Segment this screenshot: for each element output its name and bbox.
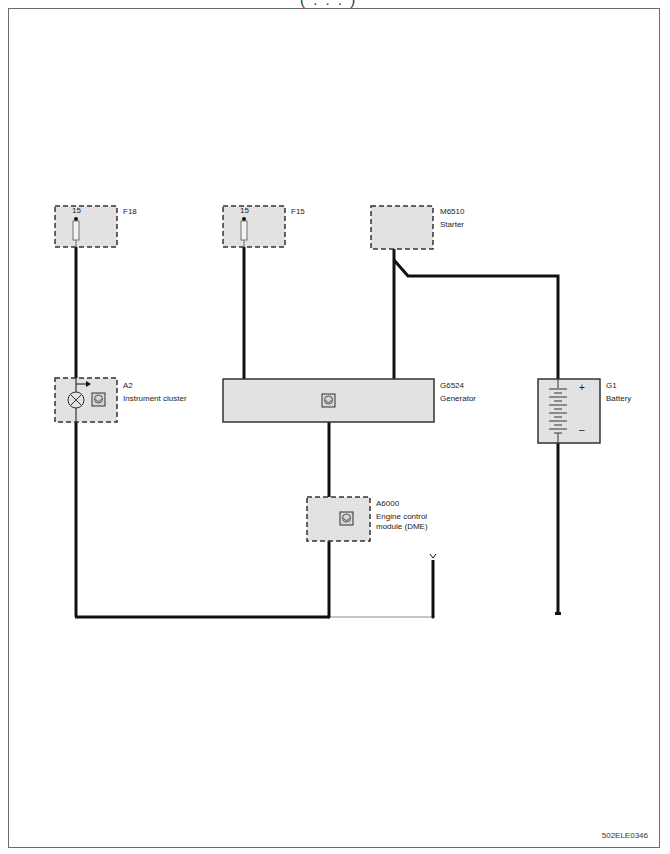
label-m6510-id: M6510 xyxy=(440,207,464,217)
component-g1[interactable] xyxy=(538,379,600,443)
junction-dot xyxy=(328,616,331,619)
connector-open-end-icon xyxy=(430,554,436,558)
component-a6000[interactable] xyxy=(307,497,370,541)
wires xyxy=(75,247,558,617)
control-unit-icon xyxy=(92,393,105,406)
component-f18[interactable] xyxy=(55,206,117,247)
wiring-diagram xyxy=(0,0,670,854)
label-m6510-name: Starter xyxy=(440,220,464,230)
control-unit-icon xyxy=(322,394,335,407)
component-m6510[interactable] xyxy=(371,206,433,249)
label-a6000-name-line2: module (DME) xyxy=(376,522,428,532)
label-a2-name: Instrument cluster xyxy=(123,394,187,404)
terminal-dot-icon xyxy=(242,217,246,221)
drawing-code: 502ELE0346 xyxy=(602,831,648,840)
label-a6000-id: A6000 xyxy=(376,499,399,509)
ground-terminal-icon xyxy=(555,612,561,615)
label-g6524-id: G6524 xyxy=(440,381,464,391)
pin-label-f18: 15 xyxy=(72,206,81,215)
junction-dot xyxy=(432,616,435,619)
label-g1-id: G1 xyxy=(606,381,617,391)
component-f15[interactable] xyxy=(223,206,285,247)
label-f18-id: F18 xyxy=(123,207,137,217)
component-g6524[interactable] xyxy=(223,379,434,422)
label-g1-name: Battery xyxy=(606,394,631,404)
label-a2-id: A2 xyxy=(123,381,133,391)
component-a2[interactable] xyxy=(55,378,117,422)
battery-minus-icon: – xyxy=(579,425,585,435)
label-f15-id: F15 xyxy=(291,207,305,217)
fuse-icon xyxy=(73,221,79,240)
control-unit-icon xyxy=(340,512,353,525)
terminal-dot-icon xyxy=(74,217,78,221)
label-a6000-name-line1: Engine control xyxy=(376,512,427,522)
label-g6524-name: Generator xyxy=(440,394,476,404)
wire-starter-battery xyxy=(394,260,558,380)
pin-label-f15: 15 xyxy=(240,206,249,215)
fuse-icon xyxy=(241,221,247,240)
battery-plus-icon: + xyxy=(579,383,585,393)
